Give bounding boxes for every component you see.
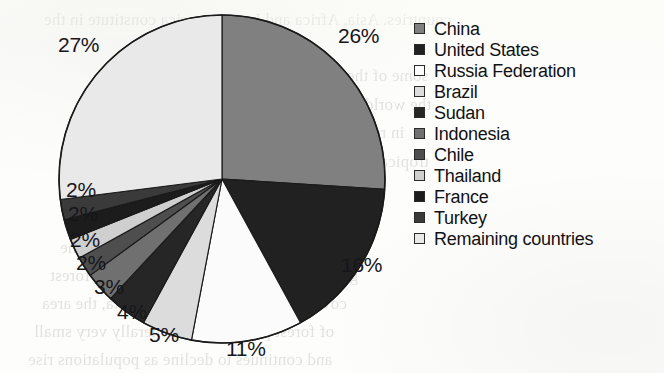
legend-swatch-icon [414, 107, 425, 118]
legend-swatch-icon [414, 212, 425, 223]
chart-legend: ChinaUnited StatesRussia FederationBrazi… [414, 18, 593, 249]
pie-value-label: 26% [338, 24, 379, 48]
legend-item[interactable]: United States [414, 39, 593, 60]
legend-item[interactable]: Indonesia [414, 123, 593, 144]
pie-value-label: 2% [70, 228, 100, 252]
legend-swatch-icon [414, 65, 425, 76]
legend-item-label: Chile [434, 146, 474, 164]
scanned-page: countries. Asia, Africa and Latin Americ… [0, 0, 664, 373]
legend-item[interactable]: Russia Federation [414, 60, 593, 81]
legend-swatch-icon [414, 149, 425, 160]
legend-item[interactable]: Chile [414, 144, 593, 165]
pie-value-label: 4% [117, 300, 147, 324]
legend-item[interactable]: Turkey [414, 207, 593, 228]
pie-value-label: 27% [58, 33, 99, 57]
legend-item[interactable]: Remaining countries [414, 228, 593, 249]
pie-value-label: 2% [66, 178, 96, 202]
pie-value-label: 2% [68, 202, 98, 226]
legend-swatch-icon [414, 233, 425, 244]
legend-swatch-icon [414, 170, 425, 181]
legend-swatch-icon [414, 128, 425, 139]
legend-item-label: Indonesia [434, 125, 510, 143]
legend-swatch-icon [414, 191, 425, 202]
legend-item-label: Thailand [434, 167, 501, 185]
legend-item-label: Brazil [434, 83, 478, 101]
legend-swatch-icon [414, 23, 425, 34]
legend-item[interactable]: Thailand [414, 165, 593, 186]
legend-item-label: Russia Federation [434, 62, 576, 80]
legend-item[interactable]: Brazil [414, 81, 593, 102]
pie-value-label: 5% [149, 323, 179, 347]
legend-item[interactable]: Sudan [414, 102, 593, 123]
pie-value-label: 3% [94, 275, 124, 299]
legend-item-label: Remaining countries [434, 230, 593, 248]
pie-value-label: 11% [226, 337, 266, 361]
pie-value-label: 2% [76, 251, 106, 275]
legend-item-label: United States [434, 41, 539, 59]
legend-swatch-icon [414, 44, 425, 55]
legend-item-label: Turkey [434, 209, 487, 227]
legend-swatch-icon [414, 86, 425, 97]
legend-item[interactable]: France [414, 186, 593, 207]
legend-item[interactable]: China [414, 18, 593, 39]
legend-item-label: Sudan [434, 104, 485, 122]
legend-item-label: France [434, 188, 489, 206]
pie-value-label: 16% [341, 253, 382, 277]
legend-item-label: China [434, 20, 480, 38]
